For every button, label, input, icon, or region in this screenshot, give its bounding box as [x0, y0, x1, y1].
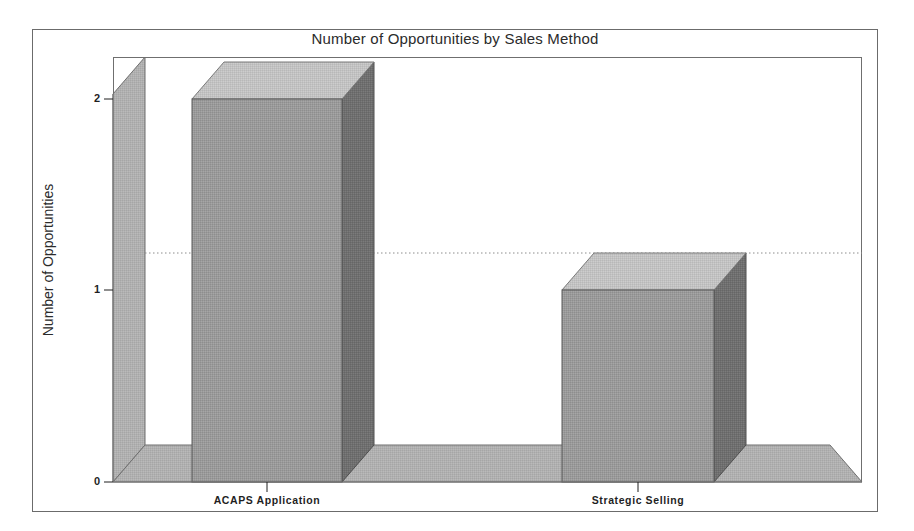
bar-front-face: [192, 99, 342, 482]
bar-side-face: [714, 253, 746, 482]
chart-container: Number of Opportunities by Sales Method: [0, 0, 914, 531]
bar-top-face: [562, 253, 746, 290]
bar-acaps-application[interactable]: [192, 62, 374, 482]
x-axis: [113, 482, 862, 492]
chart-3d-scene: [0, 0, 914, 531]
x-axis-tick-label-acaps-application: ACAPS Application: [167, 494, 367, 506]
bar-front-face: [562, 290, 714, 482]
x-axis-tick-label-strategic-selling: Strategic Selling: [538, 494, 738, 506]
y-axis: [104, 94, 113, 482]
y-axis-tick-label-2: 2: [74, 92, 100, 104]
bar-strategic-selling[interactable]: [562, 253, 746, 482]
y-axis-title: Number of Opportunities: [40, 150, 56, 370]
bar-top-face: [192, 62, 374, 99]
bar-side-face: [342, 62, 374, 482]
y-axis-tick-label-0: 0: [74, 475, 100, 487]
y-axis-tick-label-1: 1: [74, 283, 100, 295]
left-wall-3d: [113, 57, 145, 482]
